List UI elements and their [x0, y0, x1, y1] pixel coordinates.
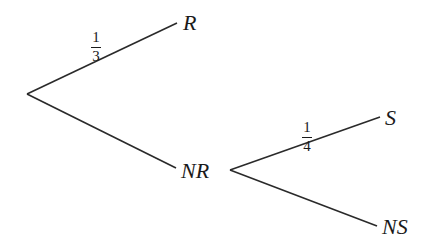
fraction-numerator: 1 [92, 30, 100, 45]
node-label-R: R [183, 12, 196, 34]
fraction-denominator: 3 [92, 49, 100, 64]
branch-root-NR [27, 94, 176, 168]
tree-lines [0, 0, 430, 241]
fraction-numerator: 1 [303, 120, 311, 135]
fraction-denominator: 4 [303, 139, 311, 154]
branch-root-R [27, 23, 177, 94]
node-label-NR: NR [181, 160, 209, 182]
branch-NR-NS [230, 170, 377, 226]
probability-NR-S: 1 4 [302, 120, 312, 154]
node-label-S: S [385, 107, 396, 129]
probability-root-R: 1 3 [91, 30, 101, 64]
node-label-NS: NS [382, 216, 408, 238]
